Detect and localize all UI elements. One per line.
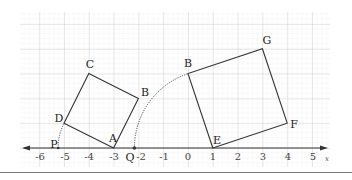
tick-neg6: -6 (35, 152, 45, 162)
label-D: D (55, 113, 64, 124)
label-B2: B (184, 58, 192, 69)
label-C: C (86, 59, 94, 70)
label-E: E (213, 135, 221, 146)
tick-1: 1 (210, 152, 216, 162)
tick-5: 5 (310, 152, 316, 162)
label-F: F (290, 119, 298, 130)
label-B: B (141, 87, 149, 98)
tick-neg1: -1 (159, 152, 169, 162)
tick-neg4: -4 (84, 152, 94, 162)
label-P: P (50, 139, 57, 150)
tick-neg2: -2 (136, 152, 146, 162)
tick-3: 3 (260, 152, 266, 162)
tick-neg5: -5 (60, 152, 70, 162)
axis-label-x: x (325, 156, 329, 163)
bottom-rule (0, 172, 352, 173)
label-A: A (109, 133, 117, 144)
grid (20, 12, 330, 167)
label-Q: Q (125, 152, 134, 163)
label-G: G (263, 35, 272, 46)
tick-4: 4 (285, 152, 291, 162)
tick-neg3: -3 (109, 152, 119, 162)
point-Q (133, 146, 137, 150)
tick-0: 0 (185, 152, 191, 162)
diagram-canvas (0, 0, 352, 180)
tick-2: 2 (235, 152, 241, 162)
